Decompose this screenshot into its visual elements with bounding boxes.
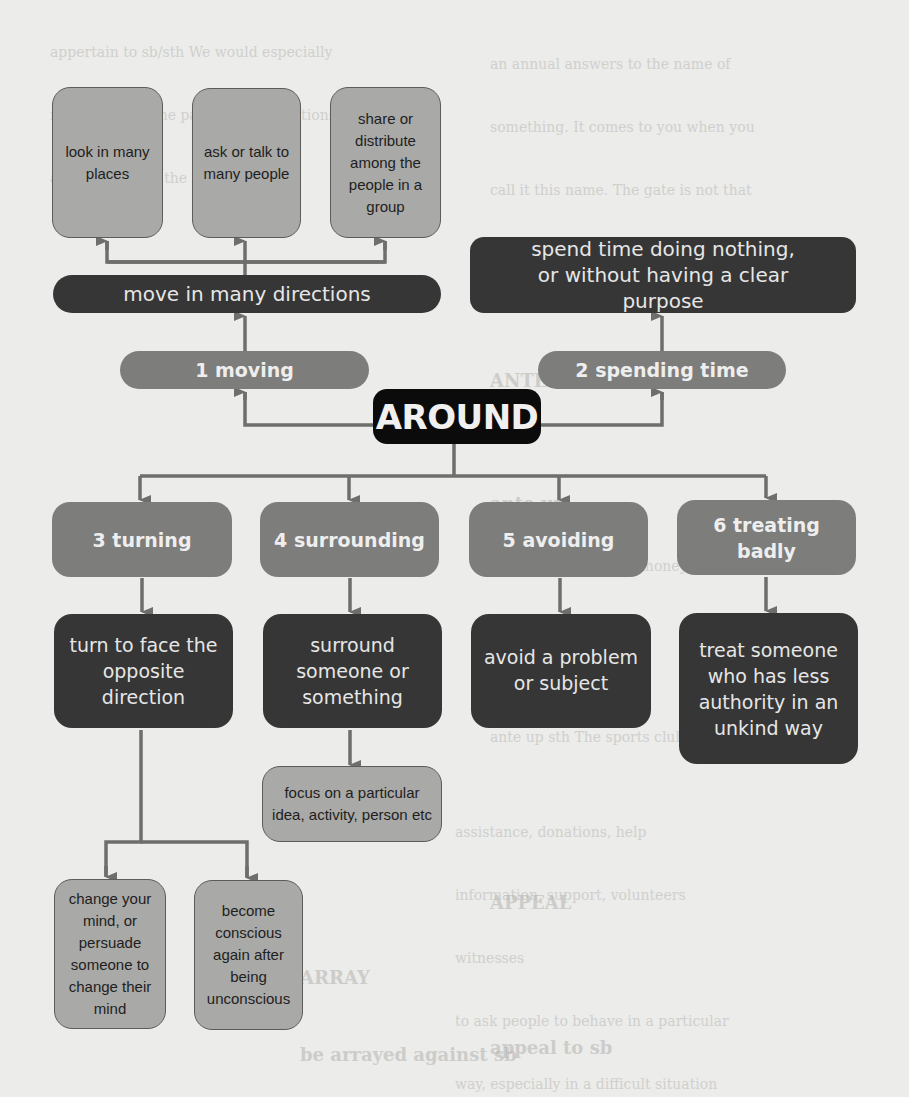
definition-text: treat someone who has less authority in … <box>679 637 858 741</box>
sub-meaning-share-or-distribute: share or distribute among the people in … <box>330 87 441 238</box>
category-2-spending-time: 2 spending time <box>538 351 786 389</box>
definition-spend-time: spend time doing nothing, or without hav… <box>470 237 856 313</box>
bg-line: an annual answers to the name of <box>490 54 776 75</box>
sub-meaning-text: share or distribute among the people in … <box>331 108 440 218</box>
definition-avoid-a-problem: avoid a problem or subject <box>471 614 651 728</box>
bg-line: way, especially in a difficult situation <box>455 1074 745 1095</box>
definition-turn-to-face: turn to face the opposite direction <box>54 614 233 728</box>
bg-line: appertain to sb/sth We would especially <box>50 42 336 63</box>
bg-line: information, support, volunteers <box>455 885 745 906</box>
sub-meaning-look-in-many-places: look in many places <box>52 87 163 238</box>
bg-line: call it this name. The gate is not that <box>490 180 776 201</box>
sub-meaning-ask-or-talk: ask or talk to many people <box>192 88 301 238</box>
sub-meaning-change-your-mind: change your mind, or persuade someone to… <box>54 879 166 1029</box>
category-label: 4 surrounding <box>268 527 431 553</box>
bg-heading: ARRAY <box>300 967 572 988</box>
sub-meaning-become-conscious: become conscious again after being uncon… <box>194 880 303 1030</box>
bg-heading: be arrayed against sb <box>300 1044 572 1065</box>
category-4-surrounding: 4 surrounding <box>260 502 439 577</box>
bg-line: to ask people to behave in a particular <box>455 1011 745 1032</box>
category-label: 1 moving <box>189 357 300 383</box>
headword-text: AROUND <box>370 397 545 437</box>
sub-meaning-text: become conscious again after being uncon… <box>195 900 302 1010</box>
definition-text: turn to face the opposite direction <box>54 632 233 710</box>
definition-text: avoid a problem or subject <box>471 644 651 696</box>
background-page-text-bottom: assistance, donations, help information,… <box>455 780 745 1097</box>
category-6-treating-badly: 6 treating badly <box>677 500 856 575</box>
bg-line: assistance, donations, help <box>455 822 745 843</box>
sub-meaning-text: focus on a particular idea, activity, pe… <box>263 782 441 826</box>
category-label: 6 treating badly <box>677 512 856 564</box>
definition-treat-someone: treat someone who has less authority in … <box>679 613 858 764</box>
definition-text: move in many directions <box>117 281 376 307</box>
category-5-avoiding: 5 avoiding <box>469 502 648 577</box>
definition-text: spend time doing nothing, or without hav… <box>470 236 856 314</box>
definition-move-in-many-directions: move in many directions <box>53 275 441 313</box>
definition-surround: surround someone or something <box>263 614 442 728</box>
category-label: 2 spending time <box>569 357 754 383</box>
category-label: 5 avoiding <box>497 527 621 553</box>
definition-text: surround someone or something <box>263 632 442 710</box>
headword-around: AROUND <box>373 389 541 444</box>
sub-meaning-focus: focus on a particular idea, activity, pe… <box>262 766 442 842</box>
category-label: 3 turning <box>87 527 198 553</box>
sub-meaning-text: change your mind, or persuade someone to… <box>55 888 165 1020</box>
category-1-moving: 1 moving <box>120 351 369 389</box>
bg-line: something. It comes to you when you <box>490 117 776 138</box>
sub-meaning-text: ask or talk to many people <box>193 141 300 185</box>
background-page-text-bottom-left: ARRAY be arrayed against sb be arrayed a… <box>300 925 572 1097</box>
bg-heading: appeal to sb <box>490 1037 776 1058</box>
bg-line: witnesses <box>455 948 745 969</box>
sub-meaning-text: look in many places <box>53 141 162 185</box>
bg-heading: APPEAL <box>490 892 776 913</box>
category-3-turning: 3 turning <box>52 502 232 577</box>
